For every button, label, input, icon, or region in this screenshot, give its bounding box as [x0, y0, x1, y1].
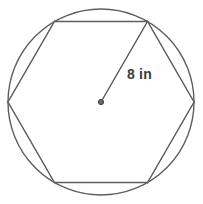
geometry-figure: 8 in — [0, 0, 203, 204]
geometry-canvas — [0, 0, 203, 204]
center-point-marker — [98, 99, 103, 104]
radius-measure-label: 8 in — [127, 67, 152, 81]
